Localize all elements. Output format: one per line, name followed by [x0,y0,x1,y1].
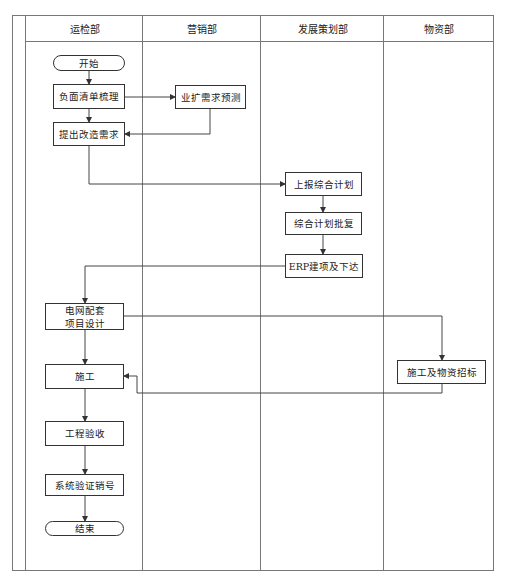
end-node: 结束 [45,521,124,536]
construction-node: 施工 [45,364,124,389]
verify-close-node: 系统验证销号 [45,474,124,496]
raise-demand-node: 提出改造需求 [53,122,125,146]
demand-forecast-node: 业扩需求预测 [175,85,246,109]
negative-list-node: 负面清单梳理 [53,84,125,109]
grid-design-line1: 电网配套 [65,304,105,317]
procurement-node: 施工及物资招标 [397,360,486,384]
plan-approval-node: 综合计划批复 [285,212,362,235]
acceptance-node: 工程验收 [45,421,124,446]
grid-design-node: 电网配套 项目设计 [45,303,124,330]
report-plan-node: 上报综合计划 [285,172,362,196]
grid-design-line2: 项目设计 [65,317,105,330]
start-node: 开始 [53,55,125,71]
erp-setup-node: ERP建项及下达 [285,254,363,278]
